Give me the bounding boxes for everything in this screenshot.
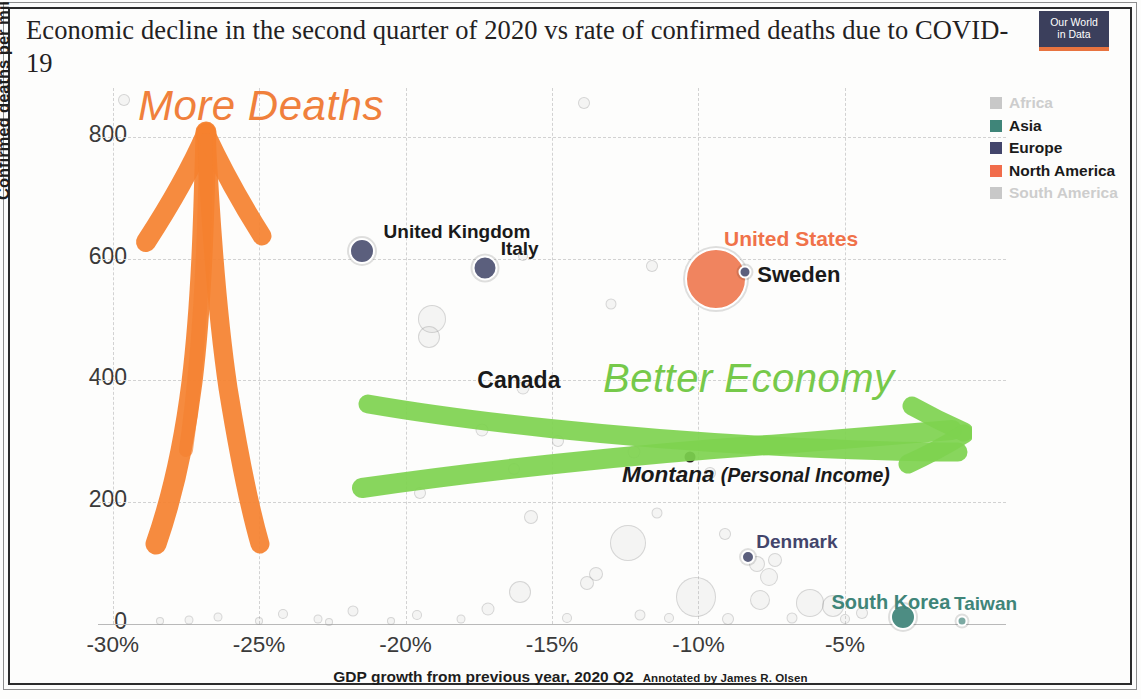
legend-item-label: Africa: [1009, 94, 1053, 112]
data-point-bubble: [481, 603, 494, 616]
data-point-bubble: [580, 576, 594, 590]
gridline-vertical: [113, 88, 114, 624]
data-point-bubble: [508, 463, 520, 475]
data-point-bubble: [610, 525, 646, 561]
y-axis-label: Confirmed deaths per million people (Aug…: [0, 0, 13, 200]
data-point-bubble: [509, 581, 531, 603]
legend-swatch-icon: [990, 187, 1002, 199]
data-point-bubble: [214, 612, 223, 621]
gridline-horizontal: [98, 259, 1006, 260]
data-point-montana-personal-income[interactable]: [684, 451, 695, 462]
legend-item-label: Europe: [1009, 139, 1062, 157]
logo-line-1: Our World: [1039, 16, 1109, 28]
data-point-bubble: [387, 617, 395, 625]
annotation-better-economy: Better Economy: [603, 356, 895, 401]
data-point-bubble: [750, 590, 770, 610]
label-united-states: United States: [724, 227, 858, 251]
data-point-bubble: [118, 94, 130, 106]
x-axis-tick-label: -15%: [492, 632, 612, 658]
label-sweden: Sweden: [757, 262, 840, 288]
legend-item-label: North America: [1009, 162, 1115, 180]
data-point-bubble: [184, 615, 193, 624]
annotation-montana-paren: (Personal Income): [721, 464, 890, 486]
data-point-bubble: [552, 435, 564, 447]
data-point-bubble: [418, 326, 440, 348]
data-point-bubble: [412, 610, 422, 620]
gridline-vertical: [552, 88, 553, 624]
data-point-bubble: [840, 614, 850, 624]
x-axis-line: [98, 624, 1006, 625]
legend-swatch-icon: [990, 142, 1002, 154]
data-point-bubble: [325, 618, 333, 626]
data-point-bubble: [414, 487, 426, 499]
data-point-bubble: [719, 528, 731, 540]
legend-item-south-america[interactable]: South America: [990, 182, 1140, 205]
data-point-bubble: [722, 613, 734, 625]
x-axis-label-text: GDP growth from previous year, 2020 Q2: [333, 668, 633, 685]
legend-item-label: Asia: [1009, 117, 1042, 135]
annotation-more-deaths: More Deaths: [138, 82, 384, 130]
label-italy: Italy: [501, 238, 539, 260]
page-title: Economic decline in the second quarter o…: [26, 14, 1016, 80]
annotation-montana-name: Montana: [622, 462, 715, 487]
legend-swatch-icon: [990, 97, 1002, 109]
label-south-korea: South Korea: [831, 591, 950, 614]
gridline-vertical: [259, 88, 260, 624]
x-axis-label: GDP growth from previous year, 2020 Q2An…: [0, 668, 1141, 686]
chart-screenshot: Economic decline in the second quarter o…: [0, 0, 1141, 699]
legend-swatch-icon: [990, 165, 1002, 177]
data-point-bubble: [796, 589, 824, 617]
x-axis-tick-label: -10%: [638, 632, 758, 658]
data-point-bubble: [760, 568, 778, 586]
x-axis-tick-label: -25%: [199, 632, 319, 658]
data-point-bubble: [628, 446, 641, 459]
data-point-taiwan[interactable]: [957, 615, 968, 626]
data-point-united-states[interactable]: [685, 248, 747, 310]
legend-swatch-icon: [990, 120, 1002, 132]
gridline-horizontal: [98, 137, 1006, 138]
data-point-bubble: [278, 609, 288, 619]
data-point-united-kingdom[interactable]: [349, 238, 375, 264]
data-point-denmark[interactable]: [741, 550, 755, 564]
legend-item-europe[interactable]: Europe: [990, 137, 1140, 160]
legend-item-label: South America: [1009, 184, 1118, 202]
our-world-in-data-logo: Our World in Data: [1039, 11, 1109, 51]
data-point-bubble: [457, 615, 466, 624]
data-point-italy[interactable]: [472, 255, 497, 280]
data-point-bubble: [313, 615, 322, 624]
logo-line-2: in Data: [1039, 28, 1109, 40]
data-point-bubble: [768, 553, 782, 567]
legend-item-asia[interactable]: Asia: [990, 115, 1140, 138]
legend-item-north-america[interactable]: North America: [990, 160, 1140, 183]
data-point-bubble: [475, 424, 488, 437]
region-legend: AfricaAsiaEuropeNorth AmericaSouth Ameri…: [990, 92, 1140, 205]
x-axis-tick-label: -20%: [346, 632, 466, 658]
data-point-bubble: [664, 613, 674, 623]
annotation-credit: Annotated by James R. Olsen: [643, 672, 808, 684]
data-point-bubble: [156, 617, 164, 625]
x-axis-tick-label: -5%: [785, 632, 905, 658]
label-canada: Canada: [477, 367, 560, 394]
label-denmark: Denmark: [756, 531, 837, 553]
data-point-bubble: [652, 507, 663, 518]
data-point-bubble: [347, 605, 358, 616]
data-point-bubble: [676, 577, 716, 617]
data-point-bubble: [605, 299, 616, 310]
annotation-montana: Montana (Personal Income): [622, 462, 890, 488]
label-taiwan: Taiwan: [954, 593, 1017, 615]
data-point-bubble: [562, 613, 572, 623]
data-point-bubble: [634, 610, 645, 621]
data-point-bubble: [524, 510, 538, 524]
legend-item-africa[interactable]: Africa: [990, 92, 1140, 115]
data-point-bubble: [646, 260, 658, 272]
gridline-vertical: [406, 88, 407, 624]
data-point-bubble: [787, 612, 798, 623]
data-point-sweden[interactable]: [739, 265, 752, 278]
data-point-bubble: [578, 97, 590, 109]
x-axis-tick-label: -30%: [53, 632, 173, 658]
data-point-bubble: [255, 617, 263, 625]
gridline-horizontal: [98, 502, 1006, 503]
